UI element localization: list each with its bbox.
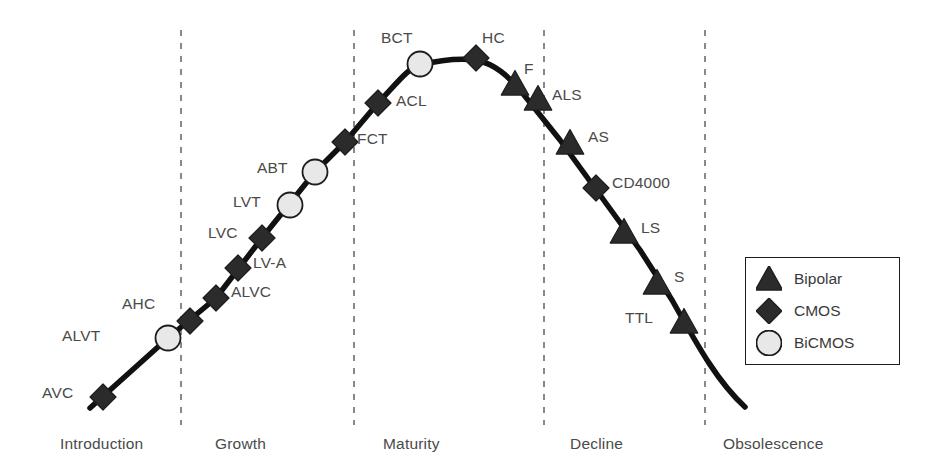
phase-label-growth: Growth	[215, 435, 266, 453]
point-label-as: AS	[588, 128, 609, 146]
chart-canvas	[0, 0, 939, 475]
marker-hc[interactable]	[463, 45, 489, 71]
legend-item-bipolar[interactable]: Bipolar	[756, 264, 842, 294]
point-label-ttl: TTL	[625, 309, 653, 327]
marker-s[interactable]	[643, 270, 671, 295]
marker-lvt[interactable]	[278, 193, 303, 218]
point-label-ahc: AHC	[122, 295, 155, 313]
marker-ttl[interactable]	[670, 309, 698, 334]
legend-item-cmos[interactable]: CMOS	[756, 296, 841, 326]
point-label-fct: FCT	[357, 130, 388, 148]
point-label-hc: HC	[482, 29, 505, 47]
point-label-avc: AVC	[42, 384, 73, 402]
point-label-s: S	[674, 268, 685, 286]
point-label-acl: ACL	[396, 92, 427, 110]
phase-label-obsolescence: Obsolescence	[723, 435, 824, 453]
point-label-lvt: LVT	[233, 193, 261, 211]
point-label-abt: ABT	[257, 159, 288, 177]
point-label-cd4000: CD4000	[612, 174, 670, 192]
point-label-f: F	[524, 60, 534, 78]
point-label-lvc: LVC	[208, 224, 238, 242]
marker-ls[interactable]	[610, 219, 638, 244]
point-label-ls: LS	[641, 219, 660, 237]
point-label-alvc: ALVC	[231, 283, 271, 301]
life-cycle-chart: IntroductionGrowthMaturityDeclineObsoles…	[0, 0, 939, 475]
marker-bct[interactable]	[408, 52, 433, 77]
phase-label-introduction: Introduction	[60, 435, 143, 453]
circle-icon	[756, 330, 782, 356]
phase-label-decline: Decline	[570, 435, 623, 453]
marker-abt[interactable]	[303, 160, 328, 185]
triangle-icon	[756, 266, 782, 292]
legend: BipolarCMOSBiCMOS	[745, 257, 900, 365]
point-label-als: ALS	[552, 86, 582, 104]
phase-label-maturity: Maturity	[383, 435, 440, 453]
point-label-bct: BCT	[381, 29, 413, 47]
legend-label-cmos: CMOS	[794, 302, 841, 320]
diamond-icon	[756, 298, 782, 324]
legend-item-bicmos[interactable]: BiCMOS	[756, 328, 854, 358]
legend-label-bicmos: BiCMOS	[794, 334, 854, 352]
marker-alvt[interactable]	[156, 326, 181, 351]
point-label-lv-a: LV-A	[253, 254, 286, 272]
point-label-alvt: ALVT	[62, 327, 100, 345]
legend-label-bipolar: Bipolar	[794, 270, 842, 288]
